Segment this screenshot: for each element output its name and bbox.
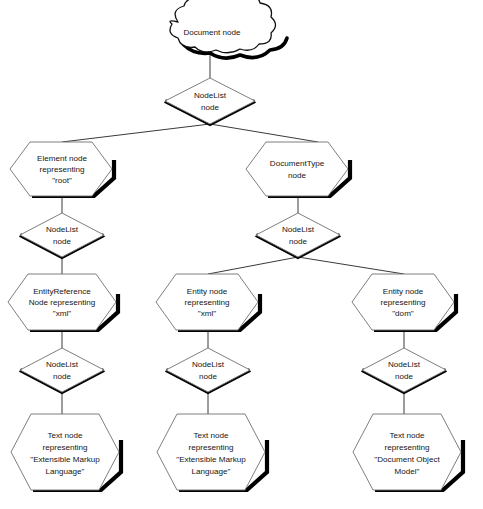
entity-xml-label-line2: representing [185, 298, 230, 307]
entity-dom-label-line1: Entity node [383, 287, 424, 296]
node-entityreference-xml: EntityReference Node representing "xml" [8, 274, 118, 330]
node-element-root: Element node representing "root" [10, 142, 114, 196]
node-text-xml-middle: Text node representing "Extensible Marku… [157, 414, 267, 490]
document-node-label: Document node [183, 28, 241, 37]
nodelist-element-fill [20, 213, 104, 257]
nodelist-element-label-line1: NodeList [46, 225, 79, 234]
text-xml-left-label-line1: Text node [47, 431, 83, 440]
nodelist-doctype-label-line2: node [289, 237, 308, 246]
entity-xml-label-line1: Entity node [187, 287, 228, 296]
diagram-canvas: Document node NodeList node Element node… [0, 0, 483, 509]
node-text-xml-left: Text node representing "Extensible Marku… [11, 414, 121, 490]
text-xml-middle-label-line2: representing [189, 443, 234, 452]
entity-dom-label-line2: representing [381, 298, 426, 307]
dom-node-tree-diagram: Document node NodeList node Element node… [0, 0, 483, 509]
element-root-label-line1: Element node [37, 154, 87, 163]
connector-nodelist-root-to-element [62, 124, 210, 142]
entityreference-xml-label-line3: "xml" [53, 309, 71, 318]
connector-nodelist-root-to-documenttype [210, 124, 318, 142]
node-nodelist-entityref: NodeList node [20, 348, 104, 392]
document-cloud-shape [170, 0, 276, 53]
node-text-dom-right: Text node representing "Document Object … [353, 414, 463, 490]
entityreference-xml-label-line2: Node representing [29, 298, 96, 307]
text-xml-middle-label-line1: Text node [193, 431, 229, 440]
text-dom-right-label-line1: Text node [389, 431, 425, 440]
nodelist-entityref-label-line2: node [53, 372, 72, 381]
nodelist-entityref-fill [20, 348, 104, 392]
node-entity-dom: Entity node representing "dom" [352, 274, 456, 330]
nodelist-entity-dom-fill [362, 348, 446, 392]
entity-xml-label-line3: "xml" [198, 309, 216, 318]
text-xml-left-label-line2: representing [43, 443, 88, 452]
text-xml-left-label-line4: Language" [46, 467, 85, 476]
text-dom-right-label-line4: Model" [395, 467, 420, 476]
nodelist-root-label-line1: NodeList [194, 91, 227, 100]
documenttype-label-line2: node [288, 171, 307, 180]
node-nodelist-element: NodeList node [20, 213, 104, 257]
text-xml-middle-label-line3: "Extensible Markup [176, 455, 246, 464]
connector-nodelist-doctype-to-entity-xml [208, 257, 298, 274]
text-dom-right-label-line2: representing [385, 443, 430, 452]
nodelist-root-fill [165, 78, 255, 124]
node-nodelist-doctype: NodeList node [256, 213, 340, 257]
node-nodelist-entity-xml: NodeList node [166, 348, 250, 392]
text-xml-middle-label-line4: Language" [192, 467, 231, 476]
nodelist-entity-xml-label-line1: NodeList [192, 360, 225, 369]
node-nodelist-root: NodeList node [165, 78, 255, 124]
documenttype-fill [246, 142, 348, 196]
entityreference-xml-label-line1: EntityReference [33, 287, 91, 296]
nodelist-doctype-label-line1: NodeList [282, 225, 315, 234]
nodelist-doctype-fill [256, 213, 340, 257]
node-entity-xml: Entity node representing "xml" [156, 274, 260, 330]
element-root-label-line3: "root" [52, 176, 72, 185]
element-root-label-line2: representing [40, 165, 85, 174]
nodelist-entity-xml-fill [166, 348, 250, 392]
node-document: Document node [170, 0, 287, 58]
node-nodelist-entity-dom: NodeList node [362, 348, 446, 392]
documenttype-label-line1: DocumentType [270, 159, 325, 168]
nodelist-entity-xml-label-line2: node [199, 372, 218, 381]
entity-dom-label-line3: "dom" [392, 309, 414, 318]
connector-nodelist-doctype-to-entity-dom [298, 257, 404, 274]
text-dom-right-label-line3: "Document Object [374, 455, 440, 464]
text-xml-left-label-line3: "Extensible Markup [30, 455, 100, 464]
nodelist-entity-dom-label-line1: NodeList [388, 360, 421, 369]
nodelist-root-label-line2: node [201, 103, 220, 112]
nodelist-entity-dom-label-line2: node [395, 372, 414, 381]
nodelist-element-label-line2: node [53, 237, 72, 246]
nodelist-entityref-label-line1: NodeList [46, 360, 79, 369]
node-documenttype: DocumentType node [246, 142, 350, 196]
